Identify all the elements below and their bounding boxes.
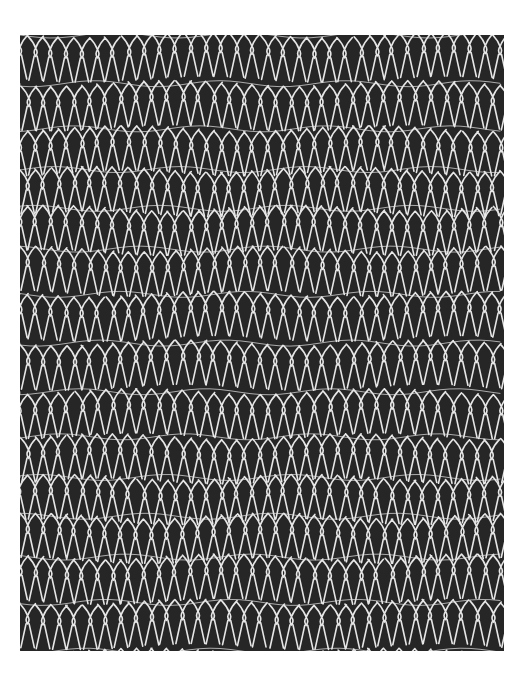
course-line: [20, 340, 500, 346]
course-line: [20, 434, 500, 440]
knit-row: [21, 434, 504, 484]
course-line: [20, 599, 500, 605]
knit-row: [20, 291, 504, 341]
knit-row: [20, 35, 504, 82]
knit-row: [20, 554, 504, 604]
knit-mesh-photo: [20, 35, 504, 651]
knit-row: [20, 126, 504, 176]
course-line: [20, 648, 500, 651]
knit-row: [20, 246, 504, 296]
knit-row: [20, 389, 504, 439]
knit-row: [20, 599, 504, 649]
knit-row: [20, 340, 504, 390]
knit-row: [21, 81, 504, 131]
knit-loops: [20, 35, 504, 651]
course-line: [20, 81, 500, 87]
mesh-pattern: [20, 35, 504, 651]
knit-row: [20, 205, 504, 255]
